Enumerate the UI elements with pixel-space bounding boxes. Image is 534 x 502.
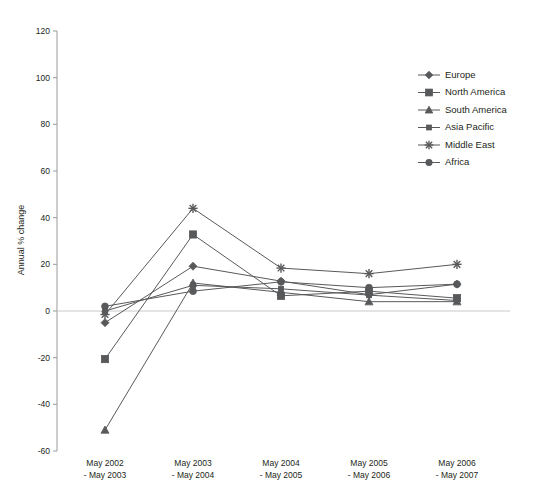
legend-label: Africa: [445, 156, 470, 167]
data-point-marker: [454, 298, 459, 303]
data-point-marker: [101, 426, 109, 433]
y-tick-label: -20: [38, 353, 51, 363]
data-point-marker: [366, 284, 373, 291]
data-point-marker: [425, 71, 433, 79]
data-point-marker: [101, 319, 109, 327]
y-tick-label: -60: [38, 446, 51, 456]
y-tick-label: 120: [36, 26, 50, 36]
series-layer: [100, 204, 461, 433]
x-tick-label: May 2005: [350, 458, 388, 468]
chart-legend: EuropeNorth AmericaSouth AmericaAsia Pac…: [418, 69, 507, 168]
chart-container: -60-40-20020406080100120 May 2002- May 2…: [0, 0, 534, 502]
legend-item-middle-east[interactable]: Middle East: [418, 139, 495, 150]
legend-label: North America: [445, 86, 506, 97]
data-point-marker: [190, 283, 195, 288]
legend-item-north-america[interactable]: North America: [418, 86, 506, 97]
data-point-marker: [427, 125, 432, 130]
x-tick-label: - May 2003: [84, 470, 127, 480]
line-chart: -60-40-20020406080100120 May 2002- May 2…: [0, 0, 534, 502]
data-point-marker: [189, 262, 197, 270]
x-tick-label: - May 2006: [348, 470, 391, 480]
data-point-marker: [102, 303, 109, 310]
y-tick-label: 0: [45, 306, 50, 316]
data-point-marker: [188, 204, 197, 213]
legend-item-europe[interactable]: Europe: [418, 69, 476, 80]
data-point-marker: [101, 355, 108, 362]
data-point-marker: [452, 260, 461, 269]
x-tick-label: May 2006: [438, 458, 476, 468]
data-point-marker: [278, 286, 283, 291]
series-south-america: [101, 279, 461, 433]
y-tick-label: -40: [38, 399, 51, 409]
data-point-marker: [426, 89, 433, 96]
y-tick-label: 40: [41, 213, 51, 223]
x-axis: May 2002- May 2003May 2003- May 2004May …: [84, 458, 479, 480]
y-tick-label: 60: [41, 166, 51, 176]
data-point-marker: [189, 231, 196, 238]
data-point-marker: [454, 281, 461, 288]
data-point-marker: [276, 263, 285, 272]
y-axis-title: Annual % change: [16, 205, 26, 276]
x-tick-label: May 2002: [86, 458, 124, 468]
x-tick-label: - May 2004: [172, 470, 215, 480]
y-tick-label: 80: [41, 119, 51, 129]
data-point-marker: [426, 159, 432, 165]
data-point-marker: [366, 293, 371, 298]
y-tick-label: 20: [41, 259, 51, 269]
data-point-marker: [278, 278, 285, 285]
y-tick-label: 100: [36, 73, 50, 83]
legend-label: Asia Pacific: [445, 121, 494, 132]
data-point-marker: [190, 288, 197, 295]
data-point-marker: [425, 141, 434, 150]
x-tick-label: May 2004: [262, 458, 300, 468]
legend-label: Europe: [445, 69, 476, 80]
legend-label: Middle East: [445, 139, 495, 150]
legend-item-africa[interactable]: Africa: [418, 156, 470, 167]
x-tick-label: - May 2005: [260, 470, 303, 480]
legend-label: South America: [445, 104, 507, 115]
legend-item-asia-pacific[interactable]: Asia Pacific: [418, 121, 494, 132]
data-point-marker: [364, 269, 373, 278]
data-point-marker: [100, 310, 109, 319]
x-tick-label: - May 2007: [436, 470, 479, 480]
y-axis: -60-40-20020406080100120: [36, 26, 57, 456]
legend-item-south-america[interactable]: South America: [418, 104, 507, 115]
x-tick-label: May 2003: [174, 458, 212, 468]
